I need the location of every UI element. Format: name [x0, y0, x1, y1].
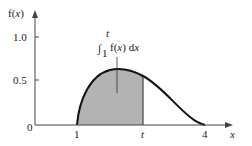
y-tick-label-1: 1.0: [13, 31, 27, 43]
x-tick-label-4: 4: [202, 128, 208, 140]
y-tick-label-05: 0.5: [13, 74, 27, 86]
y-axis-label: f(x): [8, 7, 24, 20]
x-tick-label-t: t: [141, 128, 145, 140]
x-tick-label-1: 1: [74, 128, 80, 140]
origin-label: 0: [27, 121, 33, 133]
integrand-label: f(x) dx: [110, 41, 139, 54]
shaded-integral-region: [77, 69, 143, 125]
integral-upper-limit: t: [106, 27, 110, 39]
integral-area-chart: f(x) 1.0 0.5 0 1 t 4 x ∫ t 1 f(x) dx: [0, 0, 252, 146]
integral-lower-limit: 1: [102, 47, 108, 59]
y-axis-arrow-icon: [32, 10, 38, 18]
x-axis-label: x: [229, 128, 235, 140]
